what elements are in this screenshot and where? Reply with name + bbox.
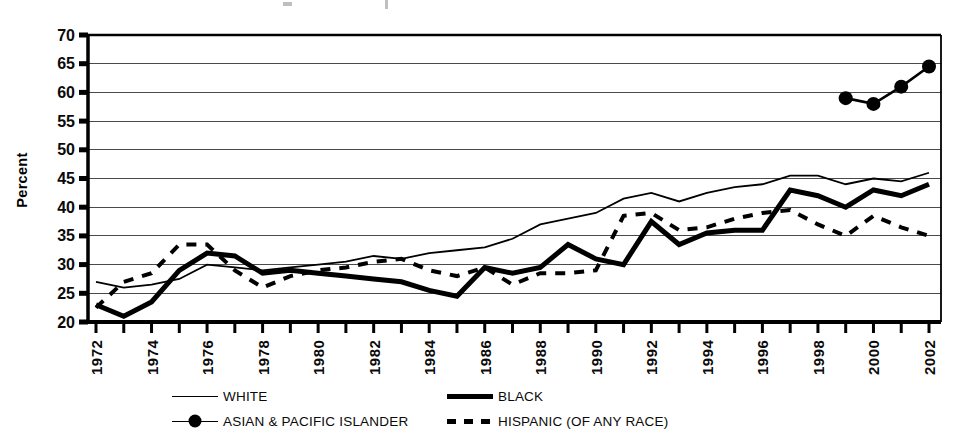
svg-text:1978: 1978 — [255, 340, 272, 375]
svg-text:30: 30 — [57, 256, 75, 273]
legend-label: HISPANIC (OF ANY RACE) — [498, 414, 668, 429]
legend-label: BLACK — [498, 389, 543, 404]
svg-text:1972: 1972 — [88, 340, 105, 375]
svg-text:1996: 1996 — [754, 340, 771, 375]
svg-text:70: 70 — [57, 27, 75, 44]
svg-text:25: 25 — [57, 285, 75, 302]
svg-text:60: 60 — [57, 84, 75, 101]
line-chart: 2025303540455055606570197219741976197819… — [0, 0, 962, 445]
svg-text:1988: 1988 — [532, 340, 549, 375]
legend-label: ASIAN & PACIFIC ISLANDER — [223, 414, 408, 429]
y-axis-title: Percent — [14, 100, 30, 260]
svg-text:1990: 1990 — [588, 340, 605, 375]
svg-text:2000: 2000 — [865, 340, 882, 375]
svg-text:2002: 2002 — [921, 340, 938, 375]
svg-text:35: 35 — [57, 227, 75, 244]
svg-text:40: 40 — [57, 199, 75, 216]
svg-text:20: 20 — [57, 314, 75, 331]
svg-text:1994: 1994 — [699, 339, 716, 375]
legend-label: WHITE — [223, 389, 268, 404]
svg-text:1992: 1992 — [643, 340, 660, 375]
svg-text:45: 45 — [57, 170, 75, 187]
svg-text:1984: 1984 — [421, 339, 438, 375]
legend-item-asian-pacific-islander: ASIAN & PACIFIC ISLANDER — [172, 412, 408, 430]
legend-item-black: BLACK — [447, 387, 543, 405]
chart-figure: 2025303540455055606570197219741976197819… — [0, 0, 962, 445]
legend-item-white: WHITE — [172, 387, 268, 405]
svg-text:50: 50 — [57, 141, 75, 158]
legend-sample-dashed-line-icon — [447, 414, 493, 429]
svg-text:55: 55 — [57, 113, 75, 130]
svg-text:1998: 1998 — [810, 340, 827, 375]
svg-text:1986: 1986 — [477, 340, 494, 375]
legend-sample-black-line-icon — [447, 389, 493, 404]
svg-text:1980: 1980 — [310, 340, 327, 375]
svg-text:1976: 1976 — [199, 340, 216, 375]
svg-text:1982: 1982 — [366, 340, 383, 375]
legend-sample-white-line-icon — [172, 389, 218, 404]
svg-text:1974: 1974 — [144, 339, 161, 375]
legend-sample-marker-line-icon — [172, 414, 218, 429]
svg-text:65: 65 — [57, 55, 75, 72]
legend-item-hispanic: HISPANIC (OF ANY RACE) — [447, 412, 668, 430]
